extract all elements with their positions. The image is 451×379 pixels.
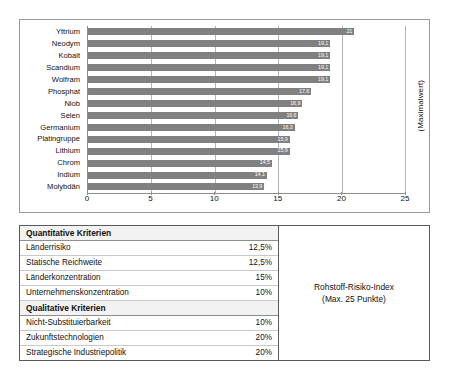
criterion-weight: 20% [256,334,272,342]
criteria-row: Länderkonzentration15% [20,271,278,286]
category-label: Niob [22,98,84,110]
bar-value-label: 19,1 [318,77,330,82]
criterion-name: Unternehmenskonzentration [26,289,129,297]
x-tick-label: 20 [337,195,346,203]
section-title: Quantitative Kriterien [26,229,111,237]
bar: 13,9 [88,183,264,190]
bar-row: 19,1 [88,62,405,74]
plot-area: 2119,119,119,119,117,616,916,616,315,915… [87,26,405,193]
axis-title-maximalwert: (Maximalwert) [416,80,425,132]
criteria-row: Nicht-Substituierbarkeit10% [20,316,278,331]
x-tick-label: 25 [401,195,410,203]
criterion-weight: 20% [256,349,272,357]
bar-series: 2119,119,119,119,117,616,916,616,315,915… [88,26,405,193]
bar-row: 14,5 [88,157,405,169]
criteria-row: Zukunftstechnologien20% [20,331,278,346]
category-label: Molybdän [22,181,84,193]
criteria-table: Quantitative KriterienLänderrisiko12,5%S… [20,226,279,360]
bar: 16,6 [88,112,298,119]
x-tick-label: 10 [210,195,219,203]
criteria-row: Unternehmenskonzentration10% [20,286,278,301]
x-tick-label: 5 [148,195,152,203]
category-label: Yttrium [22,26,84,38]
x-tick-label: 15 [273,195,282,203]
bar-row: 19,1 [88,74,405,86]
category-label: Wolfram [22,74,84,86]
bar-chart: YttriumNeodymKobaltScandiumWolframPhosph… [20,20,429,212]
criteria-panel: Quantitative KriterienLänderrisiko12,5%S… [19,225,430,361]
bar-value-label: 19,1 [318,41,330,46]
bar: 16,9 [88,100,302,107]
bar-row: 19,1 [88,38,405,50]
criterion-name: Länderkonzentration [26,274,101,282]
bar: 15,9 [88,148,290,155]
criterion-name: Länderrisiko [26,244,71,252]
bar-row: 13,9 [88,181,405,193]
bar-row: 19,1 [88,50,405,62]
category-axis: YttriumNeodymKobaltScandiumWolframPhosph… [22,26,84,193]
bar-value-label: 14,5 [260,160,272,165]
bar-row: 16,6 [88,109,405,121]
bar-row: 15,9 [88,145,405,157]
criterion-name: Statische Reichweite [26,259,102,267]
criteria-row: Länderrisiko12,5% [20,241,278,256]
criterion-name: Strategische Industriepolitik [26,349,126,357]
bar-value-label: 21 [346,29,354,34]
bar: 16,3 [88,124,295,131]
criterion-weight: 12,5% [249,259,272,267]
bar-value-label: 17,6 [299,89,311,94]
category-label: Neodym [22,38,84,50]
criteria-row: Strategische Industriepolitik20% [20,346,278,360]
category-label: Selen [22,109,84,121]
x-tick-label: 0 [85,195,89,203]
bar: 19,1 [88,40,330,47]
chart-panel: YttriumNeodymKobaltScandiumWolframPhosph… [19,19,430,213]
bar-row: 14,1 [88,169,405,181]
bar-value-label: 14,1 [255,172,267,177]
bar-row: 15,9 [88,133,405,145]
section-title: Qualitative Kriterien [26,304,106,312]
category-label: Scandium [22,62,84,74]
bar-row: 17,6 [88,86,405,98]
x-axis-line [87,193,405,194]
category-label: Lithium [22,145,84,157]
index-subtitle: (Max. 25 Punkte) [322,293,386,305]
bar-row: 21 [88,26,405,38]
index-title: Rohstoff-Risiko-Index [314,281,394,293]
bar: 21 [88,28,354,35]
criteria-section-header: Quantitative Kriterien [20,226,278,241]
criterion-weight: 12,5% [249,244,272,252]
bar-value-label: 16,3 [283,125,295,130]
bar: 14,5 [88,160,272,167]
bar-value-label: 16,6 [286,113,298,118]
category-label: Kobalt [22,50,84,62]
bar-value-label: 19,1 [318,65,330,70]
criterion-weight: 10% [256,319,272,327]
bar-value-label: 16,9 [290,101,302,106]
category-label: Indium [22,169,84,181]
bar: 17,6 [88,88,311,95]
bar: 19,1 [88,64,330,71]
bar-row: 16,3 [88,121,405,133]
criteria-section-header: Qualitative Kriterien [20,301,278,316]
x-axis-ticks: 0510152025 [87,195,405,209]
bar: 15,9 [88,136,290,143]
bar: 19,1 [88,76,330,83]
criteria-row: Statische Reichweite12,5% [20,256,278,271]
category-label: Germanium [22,121,84,133]
criterion-name: Zukunftstechnologien [26,334,104,342]
bar: 19,1 [88,52,330,59]
index-summary-box: Rohstoff-Risiko-Index (Max. 25 Punkte) [279,226,429,360]
bar-row: 16,9 [88,98,405,110]
category-label: Platingruppe [22,133,84,145]
bar: 14,1 [88,172,267,179]
bar-value-label: 15,9 [278,137,290,142]
criterion-name: Nicht-Substituierbarkeit [26,319,111,327]
bar-value-label: 15,9 [278,148,290,153]
criterion-weight: 15% [256,274,272,282]
gridline [405,26,406,193]
bar-value-label: 13,9 [252,184,264,189]
bar-value-label: 19,1 [318,53,330,58]
category-label: Phosphat [22,86,84,98]
category-label: Chrom [22,157,84,169]
